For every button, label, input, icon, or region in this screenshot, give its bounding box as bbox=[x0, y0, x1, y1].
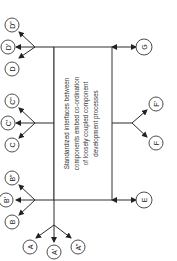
box-text-line-3: of loosely coupled component bbox=[82, 82, 90, 166]
node-G: G bbox=[136, 39, 152, 55]
svg-text:C: C bbox=[9, 142, 16, 147]
node-D: D bbox=[5, 62, 19, 76]
node-F: F bbox=[149, 136, 163, 150]
box-text-line-1: Standardized interfaces between bbox=[63, 77, 70, 169]
node-B1: B' bbox=[0, 193, 13, 207]
node-B2: B" bbox=[5, 171, 19, 185]
svg-text:B': B' bbox=[3, 197, 10, 203]
svg-text:D: D bbox=[9, 66, 16, 71]
node-B: B bbox=[5, 215, 19, 229]
center-box: Standardized interfaces between componen… bbox=[54, 47, 112, 200]
svg-text:B: B bbox=[9, 219, 16, 224]
svg-text:A": A" bbox=[75, 243, 82, 251]
svg-text:D": D" bbox=[9, 21, 16, 29]
node-C: C bbox=[5, 138, 19, 152]
svg-text:B": B" bbox=[9, 174, 16, 182]
svg-text:F': F' bbox=[153, 101, 160, 107]
node-F1: F' bbox=[149, 97, 163, 111]
svg-text:A: A bbox=[27, 244, 34, 249]
node-D1: D' bbox=[1, 40, 15, 54]
svg-text:E: E bbox=[141, 197, 148, 202]
node-A: A bbox=[23, 240, 37, 254]
node-E: E bbox=[136, 192, 152, 208]
svg-text:C': C' bbox=[5, 120, 12, 126]
svg-text:C": C" bbox=[9, 97, 16, 105]
box-text-line-4: development processes bbox=[92, 90, 100, 157]
node-C1: C' bbox=[1, 116, 15, 130]
svg-text:F: F bbox=[153, 141, 160, 145]
node-A2: A" bbox=[71, 240, 85, 254]
node-C2: C" bbox=[5, 94, 19, 108]
svg-text:D': D' bbox=[5, 44, 12, 50]
node-D2: D" bbox=[5, 18, 19, 32]
svg-text:G: G bbox=[141, 44, 148, 49]
node-A1: A' bbox=[47, 245, 61, 259]
svg-text:A': A' bbox=[51, 249, 58, 255]
box-text-line-2: components embed co-ordination bbox=[73, 76, 81, 170]
diagram-canvas: Standardized interfaces between componen… bbox=[0, 0, 177, 261]
